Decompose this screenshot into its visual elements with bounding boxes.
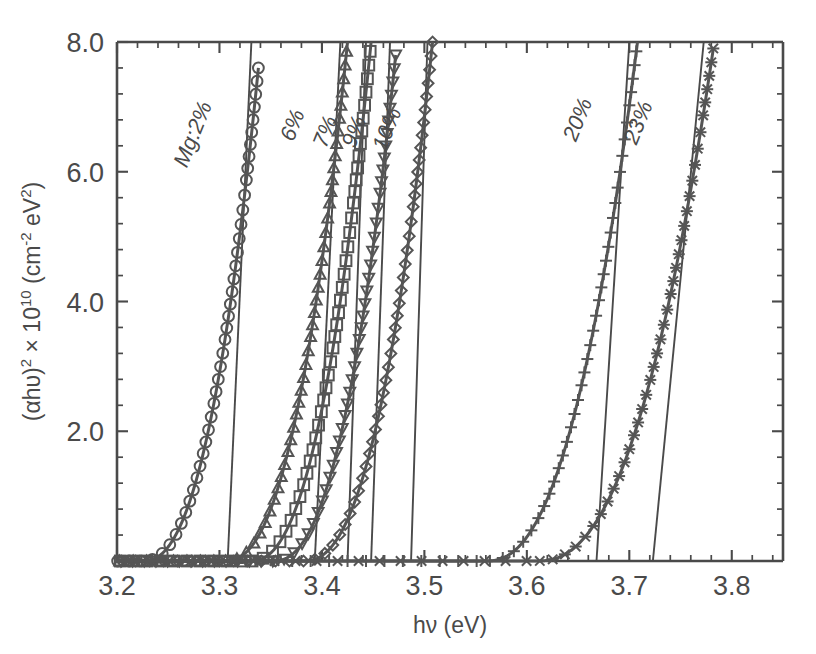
marker-plus <box>561 436 573 448</box>
marker-plus <box>627 73 639 85</box>
marker-plus <box>602 241 614 253</box>
marker-cross <box>479 556 491 565</box>
marker-cross <box>395 556 407 565</box>
x-tick-label: 3.2 <box>98 571 136 601</box>
y-tick-label: 8.0 <box>66 28 104 58</box>
tauc-plot-figure: 3.23.33.43.53.63.73.82.04.06.08.0hν (eV)… <box>0 0 816 654</box>
marker-plus <box>584 339 596 351</box>
marker-plus <box>630 45 642 57</box>
y-tick-label: 4.0 <box>66 288 104 318</box>
x-tick-label: 3.4 <box>303 571 341 601</box>
marker-plus <box>565 421 577 433</box>
marker-plus <box>572 394 584 406</box>
marker-plus <box>590 310 602 322</box>
x-tick-label: 3.5 <box>406 571 444 601</box>
y-axis-ticks <box>117 42 783 535</box>
curve-label-mg-2-: Mg:2% <box>168 98 217 171</box>
marker-cross <box>458 556 470 565</box>
marker-plus <box>553 462 565 474</box>
marker-plus <box>532 512 544 524</box>
curve-label-6-: 6% <box>275 106 310 145</box>
y-tick-label: 2.0 <box>66 417 104 447</box>
x-tick-label: 3.7 <box>611 571 649 601</box>
marker-plus <box>576 379 588 391</box>
marker-plus <box>595 281 607 293</box>
y-axis-title-text: (αhυ)2 × 1010 (cm-2 eV2) <box>17 182 45 421</box>
marker-cross <box>437 556 449 565</box>
marker-plus <box>598 268 610 280</box>
marker-plus <box>557 449 569 461</box>
y-axis-title: (αhυ)2 × 1010 (cm-2 eV2) <box>17 182 45 421</box>
marker-plus <box>629 59 641 71</box>
curve-label-10-: 10% <box>367 104 407 154</box>
marker-cross <box>534 556 546 565</box>
marker-cross <box>570 542 582 551</box>
x-axis-title: hν (eV) <box>413 612 487 638</box>
marker-plus <box>569 408 581 420</box>
marker-cross <box>374 556 386 565</box>
x-axis-ticks <box>117 42 773 561</box>
marker-plus <box>578 366 590 378</box>
curve-label-text: 6% <box>275 106 310 145</box>
marker-plus <box>548 476 560 488</box>
marker-cross <box>579 532 591 541</box>
curve-label-text: Mg:2% <box>168 98 217 171</box>
marker-cross <box>595 509 607 518</box>
marker-plus <box>543 488 555 500</box>
x-tick-label: 3.8 <box>713 571 751 601</box>
marker-cross <box>559 550 571 559</box>
marker-cross <box>353 556 365 565</box>
marker-plus <box>600 255 612 267</box>
y-tick-label: 6.0 <box>66 158 104 188</box>
axis-frame <box>117 42 783 561</box>
marker-plus <box>593 294 605 306</box>
marker-plus <box>614 166 626 178</box>
marker-cross <box>332 556 344 565</box>
curve-label-text: 20% <box>557 94 597 145</box>
marker-plus <box>587 325 599 337</box>
x-tick-label: 3.6 <box>508 571 546 601</box>
marker-plus <box>538 500 550 512</box>
marker-plus <box>605 227 617 239</box>
marker-cross <box>290 556 302 565</box>
curve-label-20-: 20% <box>557 94 597 145</box>
tangent-line <box>653 42 704 561</box>
x-tick-label: 3.3 <box>201 571 239 601</box>
marker-cross <box>547 555 559 564</box>
marker-plus <box>581 353 593 365</box>
marker-plus <box>612 182 624 194</box>
marker-cross <box>587 521 599 530</box>
curve-label-text: 10% <box>367 104 407 154</box>
plot-canvas: 3.23.33.43.53.63.73.82.04.06.08.0hν (eV)… <box>0 0 816 654</box>
marker-plus <box>616 150 628 162</box>
